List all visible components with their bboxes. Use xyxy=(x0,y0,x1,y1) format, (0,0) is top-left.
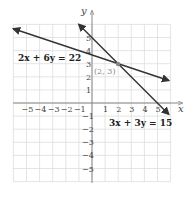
x-tick-label: −5 xyxy=(22,105,34,114)
x-axis-label: x xyxy=(178,103,184,114)
x-tick-label: 4 xyxy=(142,105,147,114)
x-tick-label: 3 xyxy=(129,105,134,114)
y-tick-label: −5 xyxy=(82,165,94,174)
equation-label-1: 2x + 6y = 22 xyxy=(18,53,81,63)
intersection-point xyxy=(116,62,120,66)
x-tick-label: −4 xyxy=(35,105,47,114)
y-axis-label: y xyxy=(80,5,87,16)
graph: x y −5−4−3−2−11234554321−1−2−3−4−5 (2, 3… xyxy=(0,0,193,198)
y-tick-label: −1 xyxy=(82,112,94,121)
x-tick-label: 2 xyxy=(116,105,121,114)
y-tick-label: −4 xyxy=(82,151,94,160)
y-tick-label: 2 xyxy=(86,73,91,82)
x-tick-label: −3 xyxy=(48,105,60,114)
intersection-label: (2, 3) xyxy=(94,67,116,76)
y-tick-label: −3 xyxy=(82,138,94,147)
y-tick-label: 1 xyxy=(86,86,91,95)
equation-label-2: 3x + 3y = 15 xyxy=(109,118,172,128)
y-tick-label: 3 xyxy=(86,60,91,69)
y-tick-label: −2 xyxy=(82,125,94,134)
axes: x y xyxy=(13,5,184,183)
x-tick-label: 1 xyxy=(103,105,108,114)
x-tick-label: 5 xyxy=(156,105,161,114)
x-tick-label: −2 xyxy=(61,105,73,114)
